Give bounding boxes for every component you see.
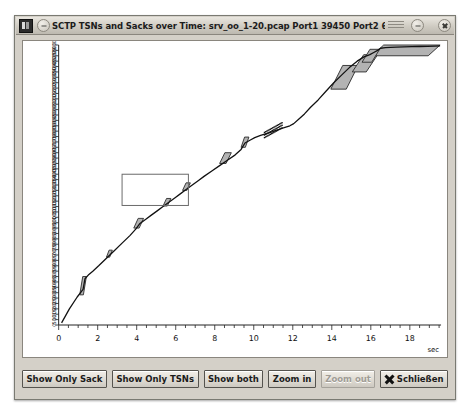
- sctp-graph-window: SCTP TSNs and Sacks over Time: srv_oo_1-…: [14, 15, 456, 400]
- window-titlebar[interactable]: SCTP TSNs and Sacks over Time: srv_oo_1-…: [16, 17, 454, 35]
- svg-text:8: 8: [212, 334, 217, 343]
- screenshot-root: SCTP TSNs and Sacks over Time: srv_oo_1-…: [0, 0, 470, 418]
- close-dialog-button[interactable]: Schließen: [380, 370, 448, 388]
- titlebar-grip-icon: [388, 21, 404, 30]
- svg-text:14: 14: [327, 334, 337, 343]
- chart-button-bar: Show Only Sack Show Only TSNs Show both …: [22, 366, 448, 392]
- chart-plot-area[interactable]: 0500100015002000250030003500400045005000…: [23, 41, 447, 357]
- minimize-button[interactable]: [411, 19, 424, 32]
- show-both-button[interactable]: Show both: [204, 370, 264, 388]
- sctp-tsn-sack-chart[interactable]: 0500100015002000250030003500400045005000…: [23, 41, 447, 357]
- close-x-icon: [385, 375, 394, 384]
- chart-panel[interactable]: 0500100015002000250030003500400045005000…: [22, 40, 448, 358]
- window-close-button[interactable]: [438, 19, 451, 32]
- svg-text:12: 12: [288, 334, 298, 343]
- chart-background: [23, 41, 447, 357]
- svg-text:0: 0: [56, 334, 61, 343]
- zoom-out-button: Zoom out: [321, 370, 376, 388]
- svg-text:10: 10: [249, 334, 259, 343]
- svg-text:26000: 26000: [51, 41, 57, 53]
- window-title: SCTP TSNs and Sacks over Time: srv_oo_1-…: [50, 17, 385, 35]
- zoom-in-button[interactable]: Zoom in: [268, 370, 316, 388]
- sctp-graph-icon: [19, 19, 33, 33]
- svg-text:18: 18: [405, 334, 415, 343]
- svg-text:6: 6: [173, 334, 178, 343]
- x-axis-label: sec: [427, 346, 439, 354]
- svg-text:4: 4: [134, 334, 139, 343]
- svg-text:2: 2: [95, 334, 100, 343]
- show-only-tsns-button[interactable]: Show Only TSNs: [112, 370, 199, 388]
- svg-text:16: 16: [366, 334, 376, 343]
- close-dialog-label: Schließen: [397, 371, 444, 387]
- window-menu-button[interactable]: [37, 19, 50, 32]
- show-only-sack-button[interactable]: Show Only Sack: [22, 370, 107, 388]
